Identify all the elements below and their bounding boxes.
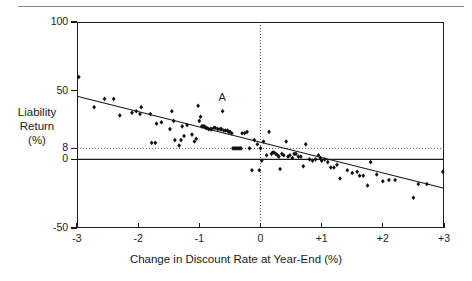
data-point <box>259 146 263 151</box>
data-point <box>179 138 183 143</box>
annotation-label-a: A <box>219 91 226 103</box>
x-axis-tick-label: +1 <box>305 232 339 244</box>
y-axis-tick <box>71 159 77 160</box>
data-point <box>199 114 203 119</box>
data-point <box>250 168 254 173</box>
data-point <box>177 143 181 148</box>
data-point <box>381 179 385 184</box>
x-axis-tick-label: -2 <box>121 232 155 244</box>
x-axis-tick <box>76 223 77 228</box>
data-point <box>299 154 303 159</box>
data-point <box>284 139 288 144</box>
y-axis-tick-label: 100 <box>40 16 68 27</box>
data-point <box>332 165 336 170</box>
plot-canvas <box>77 22 444 228</box>
data-point <box>197 119 201 124</box>
data-point <box>350 171 354 176</box>
figure-page: 1005080-50 -3-2-10+1+2+3 LiabilityReturn… <box>0 0 472 281</box>
data-point <box>412 195 416 200</box>
x-axis-tick <box>199 223 200 228</box>
data-point <box>139 105 143 110</box>
data-point <box>77 75 81 80</box>
x-axis-tick-label: -3 <box>60 232 94 244</box>
y-axis-tick-label: 50 <box>40 85 68 96</box>
data-point <box>304 142 308 147</box>
y-axis-title: LiabilityReturn(%) <box>6 105 68 147</box>
data-point <box>173 138 177 143</box>
reference-lines-group <box>77 22 444 228</box>
data-point <box>190 132 194 137</box>
y-axis-tick <box>71 21 77 22</box>
data-point <box>314 157 318 162</box>
data-point <box>308 157 312 162</box>
x-axis-tick <box>382 223 383 228</box>
data-point <box>301 164 305 169</box>
data-point <box>112 97 116 102</box>
data-point <box>387 178 391 183</box>
x-axis-tick-label: +2 <box>366 232 400 244</box>
data-point <box>103 97 107 102</box>
data-point <box>335 163 339 168</box>
data-point <box>180 124 184 129</box>
data-point <box>358 174 362 179</box>
data-point <box>326 160 330 165</box>
data-point <box>345 168 349 173</box>
data-point <box>355 169 359 174</box>
data-point <box>118 113 122 118</box>
data-point <box>160 120 164 125</box>
x-axis-title: Change in Discount Rate at Year-End (%) <box>0 253 472 265</box>
x-axis-tick <box>138 223 139 228</box>
x-axis-tick <box>321 223 322 228</box>
scatter-chart-figure: 1005080-50 -3-2-10+1+2+3 LiabilityReturn… <box>0 0 472 281</box>
data-point <box>130 110 134 115</box>
y-axis-tick-label: 0 <box>40 153 68 164</box>
data-point <box>134 109 138 114</box>
data-point <box>393 178 397 183</box>
data-point <box>338 176 342 181</box>
data-point <box>248 146 252 151</box>
x-axis-tick <box>443 223 444 228</box>
data-point <box>92 105 96 110</box>
y-axis-tick <box>71 148 77 149</box>
data-point <box>375 172 379 177</box>
data-point <box>150 141 154 146</box>
data-point <box>252 138 256 143</box>
x-axis-tick-label: +3 <box>427 232 461 244</box>
data-point <box>196 103 200 108</box>
data-point <box>149 112 153 117</box>
data-point <box>168 127 172 132</box>
data-point <box>369 160 373 165</box>
y-axis-title-line: Liability <box>6 105 68 119</box>
data-point <box>267 130 271 135</box>
data-point <box>366 183 370 188</box>
data-point <box>182 134 186 139</box>
data-point <box>425 182 429 187</box>
data-point <box>257 168 261 173</box>
data-point <box>278 167 282 172</box>
data-point <box>441 169 445 174</box>
data-point <box>265 153 269 158</box>
data-point <box>153 141 157 146</box>
x-axis-tick <box>260 223 261 228</box>
data-point <box>361 174 365 179</box>
data-point <box>170 109 174 114</box>
data-point <box>256 142 260 147</box>
y-axis-tick <box>71 90 77 91</box>
y-axis-title-line: Return <box>6 119 68 133</box>
x-axis-tick-label: -1 <box>182 232 216 244</box>
data-point <box>155 121 159 126</box>
data-point <box>172 119 176 124</box>
data-point <box>221 109 225 114</box>
x-axis-tick-label: 0 <box>244 232 278 244</box>
y-axis-title-line: (%) <box>6 133 68 147</box>
